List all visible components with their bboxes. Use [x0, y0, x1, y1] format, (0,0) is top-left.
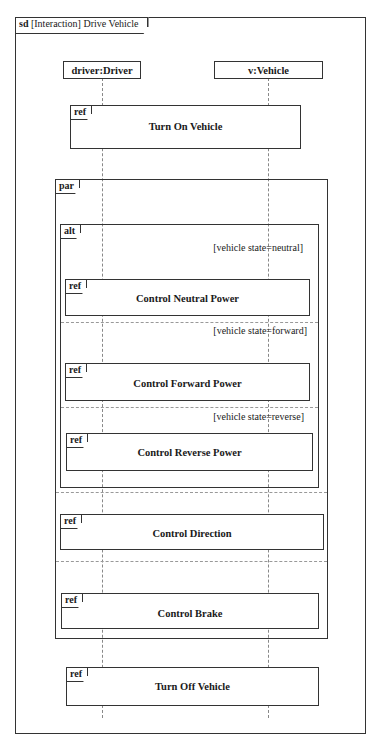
- ref-title: Turn Off Vehicle: [67, 681, 318, 692]
- lifeline-label-vehicle: v:Vehicle: [248, 65, 289, 76]
- alt-operand-separator: [61, 407, 318, 408]
- guard-forward: [vehicle state=forward]: [213, 325, 307, 336]
- ref-keyword-tab: ref: [70, 105, 92, 120]
- ref-title: Control Brake: [62, 608, 318, 619]
- ref-keyword: ref: [64, 515, 76, 526]
- par-keyword-tab: par: [55, 179, 80, 194]
- lifeline-head-vehicle[interactable]: v:Vehicle: [214, 61, 323, 79]
- ref-keyword: ref: [70, 434, 82, 445]
- ref-turn-off-vehicle[interactable]: ref Turn Off Vehicle: [66, 667, 319, 706]
- lifeline-head-driver[interactable]: driver:Driver: [63, 61, 141, 79]
- ref-title: Control Direction: [61, 528, 323, 539]
- par-operand-separator: [56, 561, 327, 562]
- ref-keyword-tab: ref: [65, 363, 87, 378]
- ref-keyword: ref: [65, 594, 77, 605]
- frame-title: [Interaction] Drive Vehicle: [31, 18, 139, 29]
- ref-keyword: ref: [70, 668, 82, 679]
- frame-kind-label: sd: [19, 18, 28, 29]
- ref-keyword: ref: [69, 364, 81, 375]
- alt-keyword-tab: alt: [60, 224, 81, 239]
- ref-control-forward-power[interactable]: ref Control Forward Power: [65, 363, 310, 401]
- lifeline-label-driver: driver:Driver: [71, 65, 132, 76]
- ref-keyword-tab: ref: [66, 667, 88, 682]
- ref-control-neutral-power[interactable]: ref Control Neutral Power: [65, 279, 310, 316]
- par-keyword: par: [59, 180, 74, 191]
- guard-reverse: [vehicle state=reverse]: [213, 411, 304, 422]
- par-operand-separator: [56, 492, 327, 493]
- ref-keyword: ref: [74, 106, 86, 117]
- ref-keyword-tab: ref: [60, 514, 82, 529]
- ref-keyword-tab: ref: [66, 433, 88, 448]
- ref-title: Turn On Vehicle: [71, 121, 300, 132]
- ref-control-direction[interactable]: ref Control Direction: [60, 514, 324, 550]
- ref-control-reverse-power[interactable]: ref Control Reverse Power: [66, 433, 313, 471]
- ref-turn-on-vehicle[interactable]: ref Turn On Vehicle: [70, 105, 301, 149]
- ref-title: Control Forward Power: [66, 378, 309, 389]
- alt-keyword: alt: [64, 225, 75, 236]
- ref-keyword: ref: [69, 280, 81, 291]
- ref-title: Control Neutral Power: [66, 293, 309, 304]
- interaction-frame-tab: sd [Interaction] Drive Vehicle: [15, 17, 149, 34]
- ref-keyword-tab: ref: [65, 279, 87, 294]
- guard-neutral: [vehicle state=neutral]: [213, 242, 303, 253]
- ref-control-brake[interactable]: ref Control Brake: [61, 593, 319, 629]
- ref-keyword-tab: ref: [61, 593, 83, 608]
- ref-title: Control Reverse Power: [67, 447, 312, 458]
- alt-operand-separator: [61, 322, 318, 323]
